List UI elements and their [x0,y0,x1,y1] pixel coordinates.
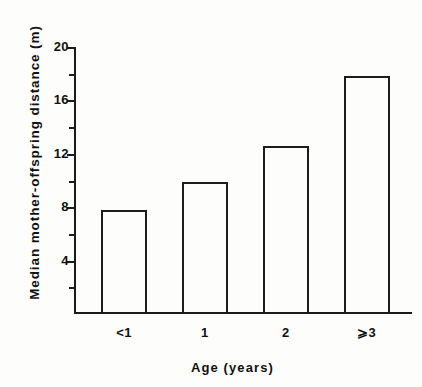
tick-mark-icon [69,127,75,129]
y-axis-tick-label: 8 [61,199,69,214]
bar-chart-figure: Median mother-offspring distance (m) 481… [0,0,422,387]
y-axis-tick-label: 16 [54,92,69,107]
bar [263,146,309,314]
y-axis-tick-label: 12 [54,146,69,161]
y-axis-title: Median mother-offspring distance (m) [27,0,42,328]
tick-mark-icon [69,181,75,183]
tick-mark-icon [69,287,75,289]
x-axis-tick-label: <1 [116,325,132,340]
x-axis-tick-label: 1 [201,325,209,340]
tick-mark-icon [69,234,75,236]
y-axis-tick-label: 20 [54,39,69,54]
y-axis-tick-label: 4 [61,253,69,268]
bar [101,210,147,314]
x-axis-title: Age (years) [60,360,405,375]
tick-mark-icon [69,74,75,76]
x-axis-tick-label: 2 [282,325,290,340]
x-axis-tick-label: ⩾3 [357,325,376,340]
bar [182,182,228,314]
bar [344,76,390,314]
plot-area: 48121620 <112⩾3 [74,45,412,315]
